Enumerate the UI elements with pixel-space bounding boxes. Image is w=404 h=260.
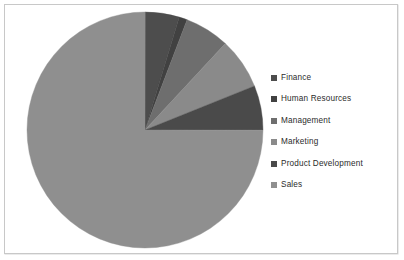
pie-chart[interactable] xyxy=(25,11,265,249)
legend-swatch-icon xyxy=(271,118,277,124)
legend-item[interactable]: Human Resources xyxy=(271,89,397,111)
legend-item[interactable]: Management xyxy=(271,110,397,132)
legend-swatch-icon xyxy=(271,182,277,188)
legend-item[interactable]: Sales xyxy=(271,175,397,197)
plot-area: FinanceHuman ResourcesManagementMarketin… xyxy=(5,5,399,255)
legend-item-label: Marketing xyxy=(281,138,318,146)
legend-item-label: Product Development xyxy=(281,160,363,168)
legend-item-label: Management xyxy=(281,117,330,125)
chart-legend: FinanceHuman ResourcesManagementMarketin… xyxy=(271,67,397,196)
legend-item[interactable]: Marketing xyxy=(271,132,397,154)
chart-frame: FinanceHuman ResourcesManagementMarketin… xyxy=(4,4,398,254)
pie-slice-group xyxy=(27,12,263,248)
legend-item-label: Human Resources xyxy=(281,95,351,103)
legend-swatch-icon xyxy=(271,161,277,167)
legend-item-label: Finance xyxy=(281,74,311,82)
legend-swatch-icon xyxy=(271,139,277,145)
legend-swatch-icon xyxy=(271,96,277,102)
legend-item[interactable]: Product Development xyxy=(271,153,397,175)
legend-item-label: Sales xyxy=(281,181,302,189)
legend-swatch-icon xyxy=(271,75,277,81)
legend-item[interactable]: Finance xyxy=(271,67,397,89)
